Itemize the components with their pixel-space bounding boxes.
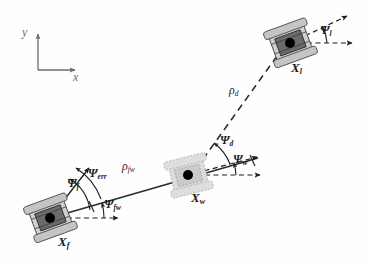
- rho-follower-virtual-line: [50, 155, 258, 218]
- formation-geometry-drawing: [0, 0, 369, 262]
- world-frame-axes: [38, 34, 75, 70]
- distance-label-rho-follower-virtual: ρfw: [122, 160, 135, 174]
- angle-label-psi-follower-to-virtual: Ψfw: [104, 198, 121, 212]
- follower-center-point: [45, 213, 55, 223]
- angle-label-psi-virtual: Ψw: [233, 153, 248, 167]
- virtual-center-point: [183, 170, 193, 180]
- leader-center-point: [285, 38, 295, 48]
- angle-label-psi-follower: Ψf: [67, 177, 79, 191]
- figure-canvas: y x Ψl Xl ρd Ψd Ψw Xw ρfw Ψerr Ψf Ψfw Xf: [0, 0, 369, 262]
- point-label-leader: Xl: [291, 61, 302, 76]
- angle-label-psi-error: Ψerr: [88, 167, 107, 181]
- point-label-follower: Xf: [58, 235, 69, 250]
- point-label-virtual: Xw: [191, 191, 205, 206]
- rho-fw-segment: [50, 158, 258, 218]
- distance-label-rho-desired: ρd: [229, 84, 238, 98]
- y-axis-label: y: [22, 26, 27, 38]
- robot-leader: [263, 16, 352, 68]
- angle-label-psi-leader: Ψl: [320, 24, 332, 38]
- angle-label-psi-desired: Ψd: [220, 134, 233, 148]
- x-axis-label: x: [73, 71, 78, 83]
